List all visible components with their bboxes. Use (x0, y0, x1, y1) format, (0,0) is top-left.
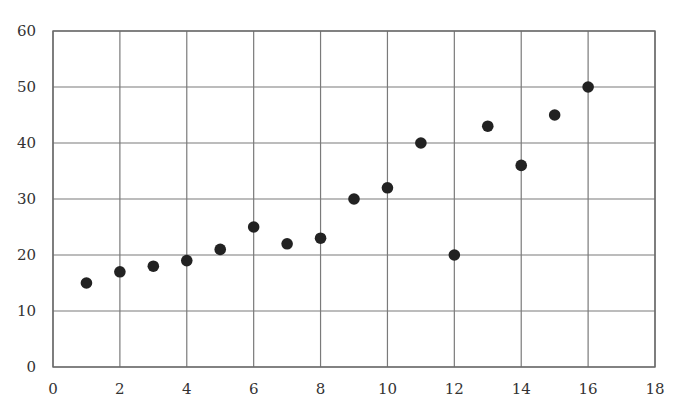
x-tick-label: 10 (378, 380, 397, 398)
x-tick-label: 16 (579, 380, 598, 398)
x-tick-label: 4 (182, 380, 192, 398)
x-tick-label: 14 (512, 380, 531, 398)
x-tick-label: 0 (48, 380, 58, 398)
data-point (549, 109, 561, 121)
data-point (515, 160, 527, 172)
data-point (415, 137, 427, 149)
data-point (248, 221, 260, 233)
y-axis-tick-labels: 0102030405060 (17, 22, 36, 376)
x-tick-label: 18 (645, 380, 664, 398)
scatter-chart: 024681012141618 0102030405060 (0, 0, 677, 417)
data-point (181, 255, 193, 267)
x-tick-label: 2 (115, 380, 125, 398)
y-tick-label: 40 (17, 134, 36, 152)
x-tick-label: 6 (249, 380, 259, 398)
data-point (281, 238, 293, 250)
data-point (114, 266, 126, 278)
y-tick-label: 10 (17, 302, 36, 320)
data-point (482, 120, 494, 132)
data-point (348, 193, 360, 205)
y-tick-label: 50 (17, 78, 36, 96)
y-tick-label: 30 (17, 190, 36, 208)
data-point (582, 81, 594, 93)
data-point (315, 232, 327, 244)
y-tick-label: 0 (26, 358, 36, 376)
x-tick-label: 8 (316, 380, 326, 398)
data-point (382, 182, 394, 194)
x-tick-label: 12 (445, 380, 464, 398)
data-point (148, 260, 160, 272)
y-tick-label: 60 (17, 22, 36, 40)
y-tick-label: 20 (17, 246, 36, 264)
data-point (81, 277, 93, 289)
data-point (449, 249, 461, 261)
data-point (214, 244, 226, 256)
x-axis-tick-labels: 024681012141618 (48, 380, 664, 398)
data-points (81, 81, 594, 289)
